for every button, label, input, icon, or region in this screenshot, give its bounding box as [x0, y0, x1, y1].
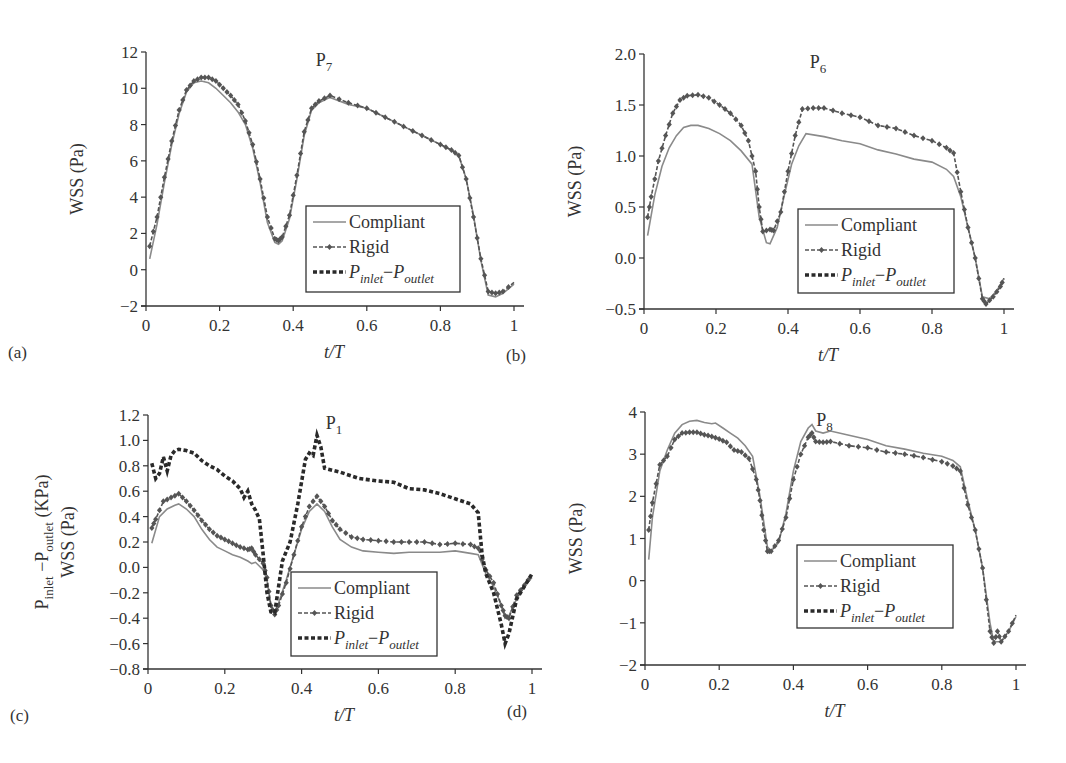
rigid-marker-diamond	[874, 447, 879, 453]
rigid-marker-diamond	[414, 539, 419, 545]
x-tick-label: 0	[142, 316, 151, 335]
y-axis-title-wss: WSS (Pa)	[58, 506, 79, 578]
rigid-marker-diamond	[506, 284, 511, 290]
rigid-marker-diamond	[945, 461, 950, 467]
rigid-marker-diamond	[399, 539, 404, 545]
legend: CompliantRigidPinlet−Poutlet	[798, 209, 954, 293]
legend-p2: P	[392, 262, 404, 282]
rigid-marker-diamond	[224, 89, 229, 95]
rigid-marker-diamond	[939, 459, 944, 465]
rigid-marker-diamond	[489, 289, 494, 295]
rigid-marker-diamond	[663, 133, 668, 139]
rigid-marker-diamond	[334, 522, 339, 528]
rigid-marker-diamond	[805, 106, 810, 112]
rigid-marker-diamond	[705, 433, 710, 439]
x-tick-label: 0.4	[777, 319, 799, 338]
y-tick-label: 1.0	[119, 431, 140, 450]
x-tick-label: 0	[641, 675, 650, 694]
rigid-marker-diamond	[364, 105, 369, 111]
y-tick-label: 1	[629, 530, 638, 549]
y-tick-label: 2	[629, 487, 638, 506]
rigid-marker-diamond	[757, 498, 762, 504]
rigid-marker-diamond	[157, 507, 162, 513]
rigid-marker-diamond	[383, 114, 388, 120]
x-tick-label: 0	[144, 679, 153, 698]
panel-title-sub: 7	[326, 59, 333, 74]
legend-p1: P	[333, 628, 345, 648]
rigid-marker-diamond	[749, 153, 754, 159]
rigid-marker-diamond	[793, 133, 798, 139]
legend-label-compliant: Compliant	[334, 578, 410, 598]
rigid-marker-diamond	[811, 105, 816, 111]
legend-sub-outlet: outlet	[896, 274, 926, 289]
rigid-marker-diamond	[467, 195, 472, 201]
rigid-marker-diamond	[471, 214, 476, 220]
y-axis-title-pressure: Pinlet −Poutlet (KPa)	[32, 475, 56, 610]
y-tick-label: −0.4	[109, 609, 140, 628]
rigid-marker-diamond	[298, 151, 303, 157]
x-tick-label: 0.2	[209, 316, 230, 335]
legend-sub-outlet: outlet	[389, 637, 419, 652]
y-tick-label: 4	[130, 188, 139, 207]
rigid-marker-diamond	[695, 92, 700, 98]
legend-label-compliant: Compliant	[841, 215, 917, 235]
rigid-marker-diamond	[911, 453, 916, 459]
legend-sub-inlet: inlet	[851, 610, 874, 625]
legend-minus: −	[368, 628, 378, 648]
rigid-marker-diamond	[739, 449, 744, 455]
rigid-marker-diamond	[816, 105, 821, 111]
rigid-marker-diamond	[429, 137, 434, 143]
x-tick-label: 0.4	[783, 675, 805, 694]
legend-sub-inlet: inlet	[852, 274, 875, 289]
legend-sub-outlet: outlet	[404, 271, 434, 286]
rigid-marker-diamond	[902, 451, 907, 457]
legend-sub-outlet: outlet	[895, 610, 925, 625]
rigid-marker-diamond	[802, 443, 807, 449]
rigid-marker-diamond	[368, 537, 373, 543]
rigid-marker-diamond	[294, 172, 299, 178]
y-tick-label: 0.8	[119, 457, 140, 476]
panel-title-sub: 6	[820, 61, 827, 76]
rigid-marker-diamond	[656, 158, 661, 164]
x-tick-label: 0.4	[283, 316, 305, 335]
rigid-marker-diamond	[401, 123, 406, 129]
x-tick-label: 0	[640, 319, 649, 338]
rigid-marker-diamond	[291, 552, 296, 558]
rigid-marker-diamond	[453, 540, 458, 546]
rigid-marker-diamond	[311, 498, 316, 504]
rigid-marker-diamond	[445, 541, 450, 547]
rigid-marker-diamond	[764, 227, 769, 233]
rigid-marker-diamond	[846, 443, 851, 449]
rigid-marker-diamond	[735, 448, 740, 454]
x-axis-title: t/T	[818, 345, 840, 365]
y-tick-label: −0.8	[109, 660, 140, 679]
rigid-marker-diamond	[848, 112, 853, 118]
figure-canvas: −202468101200.20.40.60.81t/TWSS (Pa)P7(a…	[0, 0, 1066, 763]
legend-minus: −	[874, 601, 884, 621]
rigid-marker-diamond	[929, 138, 934, 144]
rigid-marker-diamond	[930, 457, 935, 463]
x-tick-label: 1	[1000, 319, 1009, 338]
x-tick-label: 1	[1012, 675, 1021, 694]
panel-a-wss-p7: −202468101200.20.40.60.81t/TWSS (Pa)P7(a…	[8, 43, 524, 362]
rigid-marker-diamond	[984, 597, 989, 603]
panel-title: P7	[316, 50, 333, 74]
legend-p2: P	[377, 628, 389, 648]
rigid-marker-diamond	[649, 194, 654, 200]
rigid-marker-diamond	[973, 527, 978, 533]
rigid-marker-diamond	[728, 443, 733, 449]
rigid-marker-diamond	[343, 530, 348, 536]
rigid-marker-diamond	[652, 176, 657, 182]
legend-p2: P	[884, 265, 896, 285]
y-title-sub-inlet: inlet	[41, 576, 56, 599]
y-axis-title: WSS (Pa)	[67, 143, 88, 215]
y-title-sub-outlet: outlet	[41, 522, 56, 552]
rigid-marker-diamond	[976, 275, 981, 281]
rigid-marker-diamond	[690, 92, 695, 98]
rigid-marker-diamond	[778, 209, 783, 215]
rigid-marker-diamond	[965, 224, 970, 230]
rigid-marker-diamond	[373, 110, 378, 116]
panel-title-main: P	[316, 50, 326, 70]
rigid-marker-diamond	[743, 452, 748, 458]
panel-title-sub: 1	[336, 422, 343, 437]
